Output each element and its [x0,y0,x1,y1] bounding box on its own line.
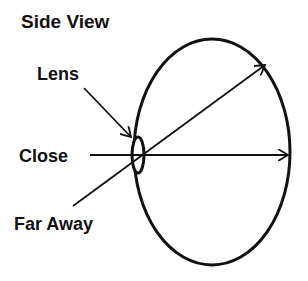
diagram-title: Side View [21,12,109,31]
far-ray-arrow [73,65,265,206]
eye-side-view-diagram: Side View Lens Close Far Away [0,0,308,281]
close-label: Close [19,147,68,165]
lens-label: Lens [37,65,79,83]
far-away-label: Far Away [14,215,93,233]
lens-pointer-arrow [84,88,131,137]
eyeball-outline [134,39,290,265]
diagram-canvas [0,0,308,281]
